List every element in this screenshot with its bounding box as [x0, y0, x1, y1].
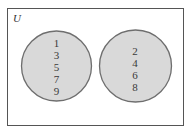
venn-diagram: U 1 3 5 7 9 2 4 6 8 — [0, 0, 193, 133]
left-element: 5 — [54, 61, 60, 73]
right-element: 4 — [132, 57, 138, 69]
left-element: 7 — [54, 73, 60, 85]
left-element: 1 — [54, 37, 60, 49]
right-element: 2 — [132, 45, 138, 57]
right-element: 6 — [132, 69, 138, 81]
left-element: 3 — [54, 49, 60, 61]
right-element: 8 — [132, 81, 138, 93]
universe-label: U — [13, 12, 22, 24]
left-element: 9 — [54, 85, 60, 97]
